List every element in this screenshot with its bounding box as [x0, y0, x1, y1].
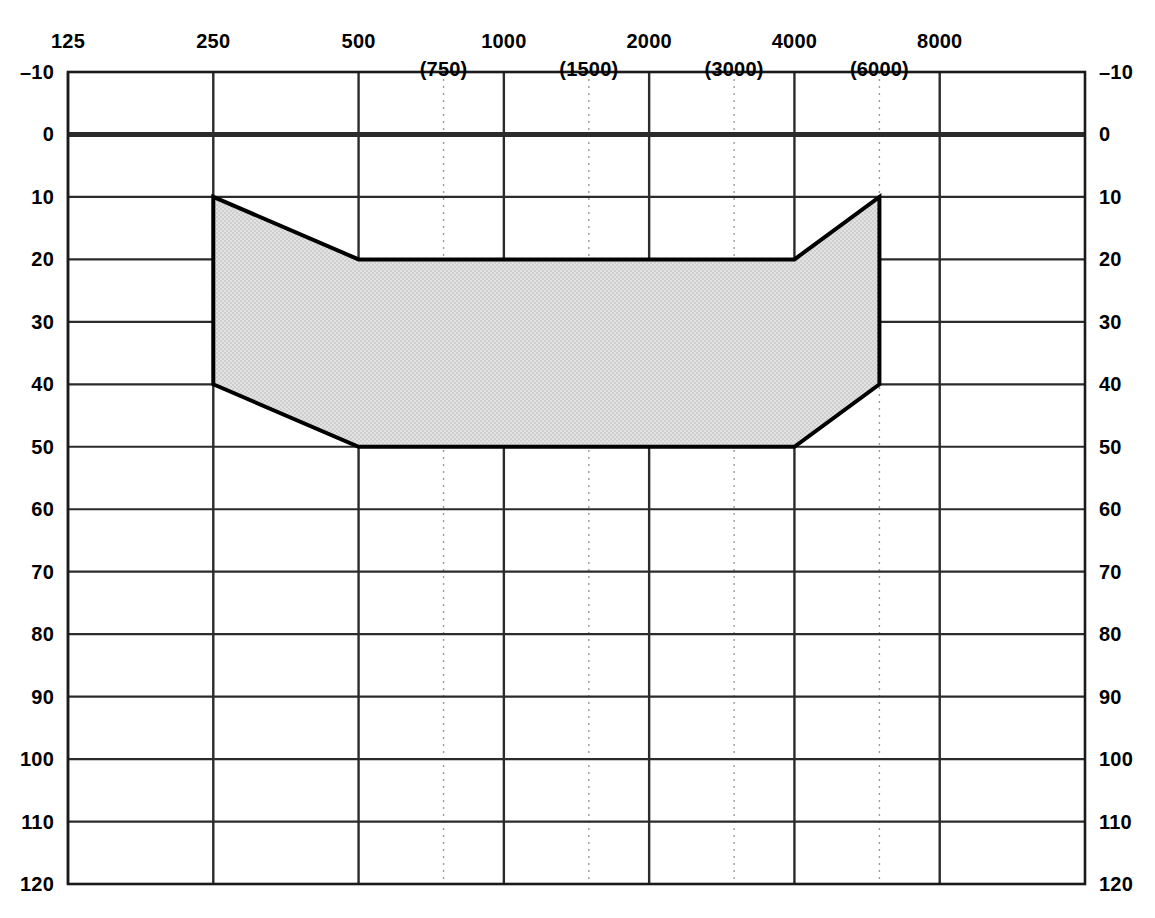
y-tick-left-20: 20 [31, 249, 54, 269]
audiogram-chart: 1252505001000200040008000 (750)(1500)(30… [0, 0, 1155, 918]
y-tick-right-110: 110 [1099, 812, 1132, 832]
plot-background [68, 72, 1085, 884]
y-tick-right-20: 20 [1099, 249, 1122, 269]
x-tick-1000: 1000 [481, 31, 526, 51]
y-tick-left-0: 0 [43, 124, 54, 144]
y-tick-left-80: 80 [31, 624, 54, 644]
y-tick-left-60: 60 [31, 499, 54, 519]
x-tick-250: 250 [196, 31, 230, 51]
y-tick-right-50: 50 [1099, 437, 1122, 457]
y-tick-left-30: 30 [31, 312, 54, 332]
y-tick-left-100: 100 [20, 749, 54, 769]
y-tick-left-10: 10 [31, 187, 54, 207]
y-tick-left--10: –10 [20, 62, 54, 82]
y-tick-right-120: 120 [1099, 874, 1133, 894]
x-tick-6000: (6000) [850, 59, 909, 79]
y-tick-left-70: 70 [31, 562, 54, 582]
x-tick-8000: 8000 [917, 31, 962, 51]
chart-canvas [0, 0, 1155, 918]
x-tick-1500: (1500) [559, 59, 618, 79]
y-tick-right-70: 70 [1099, 562, 1122, 582]
y-tick-left-90: 90 [31, 687, 54, 707]
y-tick-right-100: 100 [1099, 749, 1133, 769]
y-tick-right-80: 80 [1099, 624, 1122, 644]
y-tick-left-50: 50 [31, 437, 54, 457]
y-tick-right-40: 40 [1099, 374, 1122, 394]
x-tick-125: 125 [51, 31, 85, 51]
y-tick-left-40: 40 [31, 374, 54, 394]
y-tick-right--10: –10 [1099, 62, 1133, 82]
x-tick-4000: 4000 [772, 31, 817, 51]
x-tick-3000: (3000) [705, 59, 764, 79]
y-tick-right-30: 30 [1099, 312, 1122, 332]
y-tick-right-10: 10 [1099, 187, 1122, 207]
x-tick-2000: 2000 [626, 31, 671, 51]
y-tick-left-110: 110 [21, 812, 54, 832]
x-tick-750: (750) [420, 59, 468, 79]
x-tick-500: 500 [342, 31, 376, 51]
y-tick-right-60: 60 [1099, 499, 1122, 519]
y-tick-right-0: 0 [1099, 124, 1110, 144]
y-tick-right-90: 90 [1099, 687, 1122, 707]
y-tick-left-120: 120 [20, 874, 54, 894]
